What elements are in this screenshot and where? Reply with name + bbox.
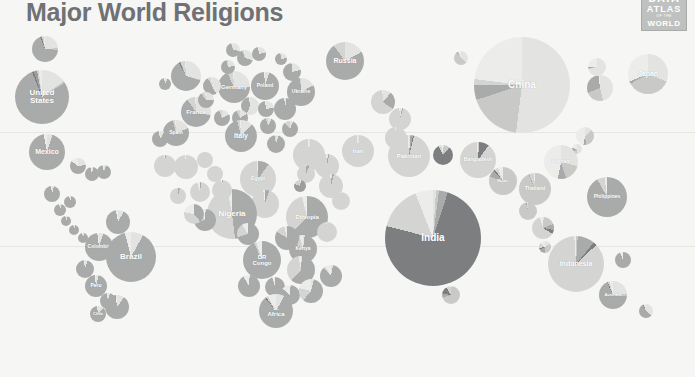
country-pie <box>433 145 453 165</box>
world-religion-cartogram: UnitedStatesMexicoColombiaPeruBrazilChil… <box>0 14 695 310</box>
country-pie <box>539 241 551 253</box>
country-pie <box>275 53 287 65</box>
legend: 11.8%Atheist/Agnostic7.2%Buddhist32.8%Ch… <box>0 306 695 377</box>
country-pie <box>587 75 613 101</box>
country-pie <box>299 279 323 303</box>
country-pie <box>576 127 594 145</box>
country-pie <box>154 155 176 177</box>
country-pie <box>489 167 517 195</box>
country-pie <box>544 145 578 179</box>
country-pie <box>388 135 430 177</box>
country-pie <box>519 202 537 220</box>
country-pie <box>599 281 627 309</box>
country-pie <box>532 217 554 239</box>
country-pie <box>61 216 71 226</box>
country-pie <box>226 43 240 57</box>
country-pie <box>615 252 631 268</box>
country-pie <box>44 186 60 202</box>
country-pie <box>283 63 301 81</box>
country-pie <box>519 173 551 205</box>
country-pie <box>548 236 604 292</box>
country-pie <box>588 58 606 76</box>
country-pie <box>260 118 276 134</box>
country-pie <box>29 134 65 170</box>
infographic-root: Major World Religions DATA ATLAS OF THE … <box>0 0 695 377</box>
country-pie <box>190 182 210 202</box>
country-pie <box>69 225 79 235</box>
country-pie <box>221 60 235 74</box>
country-pie <box>320 265 342 287</box>
country-pie <box>184 204 204 224</box>
country-pie <box>171 61 201 91</box>
country-pie <box>628 54 668 94</box>
logo-line-atlas: ATLAS <box>647 4 681 14</box>
country-pie <box>106 232 156 282</box>
country-pie <box>32 36 58 62</box>
country-pie <box>197 152 213 168</box>
country-pie <box>258 101 274 117</box>
country-pie <box>342 135 374 167</box>
country-pie <box>214 110 230 126</box>
country-pie <box>294 180 306 192</box>
country-pie <box>225 120 257 152</box>
country-pie <box>243 241 281 279</box>
country-pie <box>287 78 315 106</box>
country-pie <box>97 165 111 179</box>
country-pie <box>317 222 337 242</box>
country-pie <box>326 42 364 80</box>
country-pie <box>15 70 69 124</box>
country-pie <box>152 131 168 147</box>
country-pie <box>64 196 76 208</box>
country-pie <box>238 275 260 297</box>
country-pie <box>252 47 266 61</box>
country-pie <box>442 286 460 304</box>
country-pie <box>54 204 66 216</box>
country-pie <box>251 72 279 100</box>
country-pie <box>198 92 214 108</box>
country-pie <box>70 158 86 174</box>
country-pie <box>454 51 468 65</box>
country-pie <box>106 210 130 234</box>
country-pie <box>174 155 198 179</box>
country-pie <box>474 37 570 133</box>
country-pie <box>282 121 298 137</box>
country-pie <box>385 190 481 286</box>
country-pie <box>332 192 350 210</box>
country-pie <box>275 226 299 250</box>
country-pie <box>587 177 627 217</box>
country-pie <box>170 188 186 204</box>
country-pie <box>212 180 232 200</box>
country-pie <box>267 135 285 153</box>
country-pie <box>159 78 171 90</box>
